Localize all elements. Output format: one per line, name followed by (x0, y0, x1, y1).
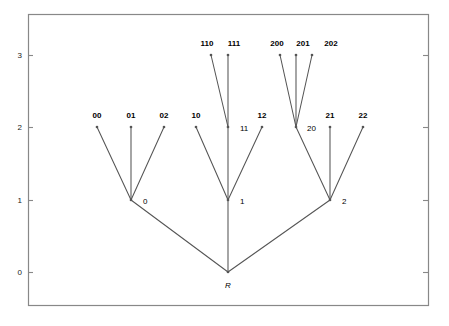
tree-node-marker-11 (227, 126, 230, 129)
tree-node-label-20: 20 (307, 124, 316, 133)
tree-node-label-200: 200 (270, 39, 284, 48)
tree-node-marker-21 (329, 126, 332, 129)
tree-node-label-R: R (225, 281, 231, 290)
tree-node-label-111: 111 (228, 39, 241, 48)
tree-node-label-12: 12 (258, 111, 267, 120)
tree-node-marker-22 (362, 126, 365, 129)
tree-node-label-1: 1 (240, 197, 245, 206)
tree-node-marker-0 (130, 199, 133, 202)
tree-node-label-110: 110 (201, 39, 214, 48)
y-tick-label-0: 0 (18, 268, 23, 277)
plot-canvas: 3210 R0120001021011122021221101112002012… (0, 0, 449, 326)
tree-node-label-02: 02 (160, 111, 169, 120)
tree-diagram-figure: 3210 R0120001021011122021221101112002012… (0, 0, 449, 326)
tree-node-marker-01 (130, 126, 133, 129)
tree-node-marker-12 (261, 126, 264, 129)
tree-node-label-0: 0 (143, 197, 148, 206)
tree-node-marker-R (227, 271, 230, 274)
tree-node-marker-20 (295, 126, 298, 129)
tree-node-label-01: 01 (127, 111, 136, 120)
tree-node-marker-1 (227, 199, 230, 202)
y-tick-label-3: 3 (18, 51, 23, 60)
tree-node-marker-202 (311, 54, 314, 57)
tree-node-label-21: 21 (326, 111, 335, 120)
tree-node-label-00: 00 (93, 111, 102, 120)
tree-node-marker-110 (210, 54, 213, 57)
tree-node-label-202: 202 (324, 39, 338, 48)
y-tick-label-1: 1 (18, 196, 23, 205)
tree-node-label-10: 10 (192, 111, 201, 120)
tree-node-marker-111 (227, 54, 230, 57)
tree-node-marker-200 (279, 54, 282, 57)
tree-node-label-22: 22 (359, 111, 368, 120)
tree-node-label-11: 11 (240, 124, 249, 133)
tree-node-marker-201 (295, 54, 298, 57)
y-tick-label-2: 2 (18, 123, 23, 132)
tree-node-label-2: 2 (342, 197, 347, 206)
tree-node-marker-2 (329, 199, 332, 202)
tree-node-marker-10 (195, 126, 198, 129)
tree-node-label-201: 201 (296, 39, 310, 48)
tree-node-marker-00 (96, 126, 99, 129)
figure-background (0, 0, 449, 326)
tree-node-marker-02 (163, 126, 166, 129)
